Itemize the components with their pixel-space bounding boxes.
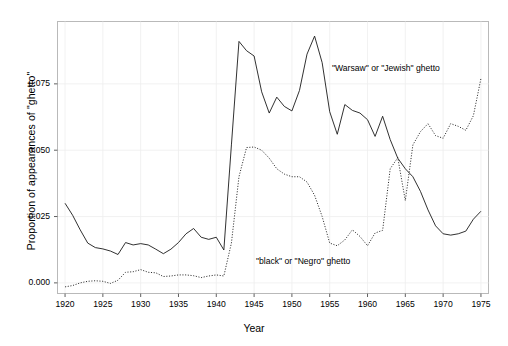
annotation-warsaw-jewish: "Warsaw" or "Jewish" ghetto <box>332 63 440 73</box>
x-axis-label: Year <box>0 322 508 334</box>
y-tick-label: 0.000 <box>4 277 50 287</box>
chart-figure: Proportion of appearances of "ghetto" Ye… <box>0 0 508 346</box>
annotation-black-negro: "black" or "Negro" ghetto <box>256 256 350 266</box>
x-tick-label: 1975 <box>459 299 503 309</box>
y-tick-label: 0.050 <box>4 145 50 155</box>
y-tick-label: 0.025 <box>4 211 50 221</box>
y-tick-label: 0.075 <box>4 78 50 88</box>
plot-area <box>0 0 508 346</box>
